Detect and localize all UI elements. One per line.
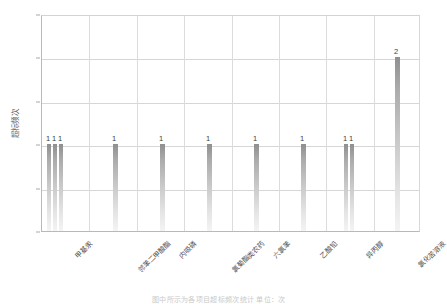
gridline-3 — [42, 103, 419, 104]
x-label-4: 六氯苯 — [270, 238, 292, 260]
x-label-7: 氯化苦溶液 — [415, 238, 447, 270]
y-tick-mark-5 — [36, 15, 40, 16]
bar-1[interactable] — [53, 144, 57, 231]
category-separator-7 — [374, 16, 375, 231]
gridline-1 — [42, 190, 419, 191]
caption-text: 图中所示为各项目超标频次统计 单位：次 — [152, 296, 286, 304]
y-tick-mark-1 — [36, 188, 40, 189]
bar-10[interactable] — [395, 57, 400, 231]
x-label-0: 甲基汞 — [72, 238, 94, 260]
bar-value-label-10: 2 — [394, 47, 398, 56]
category-separator-3 — [184, 16, 185, 231]
category-separator-4 — [232, 16, 233, 231]
bar-value-label-7: 1 — [300, 134, 304, 143]
bar-value-label-8: 1 — [343, 134, 347, 143]
category-separator-2 — [137, 16, 138, 231]
gridline-2 — [42, 146, 419, 147]
y-tick-mark-2 — [36, 145, 40, 146]
bar-5[interactable] — [207, 144, 212, 231]
bar-value-label-5: 1 — [206, 134, 210, 143]
bar-7[interactable] — [301, 144, 306, 231]
bar-3[interactable] — [113, 144, 118, 231]
cropped-caption: 图中所示为各项目超标频次统计 单位：次 — [0, 296, 428, 304]
gridline-4 — [42, 59, 419, 60]
bar-9[interactable] — [350, 144, 354, 231]
plot-area — [41, 15, 420, 232]
x-label-1: 邻苯二甲酸酯 — [135, 238, 172, 275]
bar-value-label-9: 1 — [349, 134, 353, 143]
category-separator-1 — [89, 16, 90, 231]
y-tick-mark-0 — [36, 232, 40, 233]
y-tick-mark-4 — [36, 58, 40, 59]
bar-0[interactable] — [47, 144, 51, 231]
x-label-6: 异丙醇 — [363, 238, 385, 260]
bar-value-label-4: 1 — [159, 134, 163, 143]
y-tick-mark-3 — [36, 101, 40, 102]
bar-4[interactable] — [160, 144, 165, 231]
y-axis-title: 超标频次 — [9, 94, 20, 154]
bar-6[interactable] — [254, 144, 259, 231]
x-label-2: 内吸磷 — [176, 238, 198, 260]
bar-8[interactable] — [344, 144, 348, 231]
bar-value-label-2: 1 — [58, 134, 62, 143]
x-label-3: 氯菊酯类农药 — [229, 238, 266, 275]
bar-value-label-6: 1 — [253, 134, 257, 143]
category-separator-5 — [279, 16, 280, 231]
bar-value-label-3: 1 — [112, 134, 116, 143]
bar-value-label-0: 1 — [46, 134, 50, 143]
category-separator-6 — [326, 16, 327, 231]
bar-2[interactable] — [59, 144, 63, 231]
bar-value-label-1: 1 — [52, 134, 56, 143]
x-label-5: 乙酸铅 — [317, 238, 339, 260]
